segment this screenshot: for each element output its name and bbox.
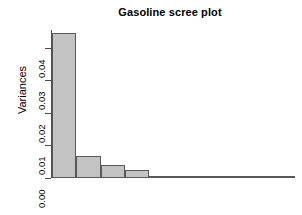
y-axis-tick-label: 0.04	[37, 48, 47, 90]
bar	[52, 33, 76, 178]
bar-series	[52, 22, 295, 178]
bar	[76, 156, 100, 178]
bar	[271, 176, 295, 178]
scree-plot-figure: Gasoline scree plot Variances 0.000.010.…	[0, 0, 302, 215]
bar	[198, 176, 222, 178]
bar	[246, 176, 270, 178]
y-axis-label: Variances	[16, 40, 28, 140]
bar	[222, 176, 246, 178]
chart-title: Gasoline scree plot	[0, 6, 302, 18]
bar	[149, 176, 173, 178]
bar	[173, 176, 197, 178]
bar	[101, 165, 125, 178]
bar	[125, 170, 149, 178]
